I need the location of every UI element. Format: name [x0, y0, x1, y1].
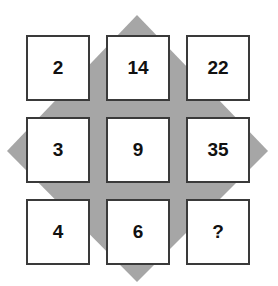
cell-r2c1: 3 [26, 117, 90, 183]
cell-value: 22 [207, 57, 228, 79]
cell-r3c3-unknown: ? [186, 199, 250, 265]
cell-value: 6 [133, 221, 144, 243]
cell-value: 2 [53, 57, 64, 79]
cell-value-question: ? [212, 221, 224, 243]
cell-r1c1: 2 [26, 35, 90, 101]
cell-r1c3: 22 [186, 35, 250, 101]
cell-value: 9 [133, 139, 144, 161]
cell-r3c2: 6 [106, 199, 170, 265]
cell-value: 35 [207, 139, 228, 161]
cell-value: 14 [127, 57, 148, 79]
cell-r2c2: 9 [106, 117, 170, 183]
cell-value: 3 [53, 139, 64, 161]
cell-r2c3: 35 [186, 117, 250, 183]
cell-r1c2: 14 [106, 35, 170, 101]
cell-value: 4 [53, 221, 64, 243]
cell-r3c1: 4 [26, 199, 90, 265]
